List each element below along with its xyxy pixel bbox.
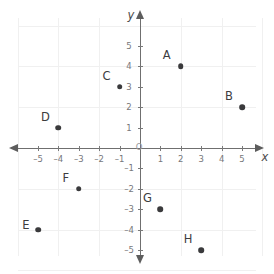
point-label-f: F	[62, 171, 69, 185]
plotted-point-e	[35, 227, 41, 233]
plotted-point-b	[239, 104, 245, 110]
point-label-g: G	[143, 191, 152, 205]
point-label-a: A	[163, 48, 171, 62]
plotted-point-d	[56, 125, 62, 131]
points-layer: ABCDEFGH	[0, 0, 274, 274]
plotted-point-g	[158, 206, 164, 212]
plotted-point-a	[178, 64, 184, 70]
coordinate-plane-chart: –5–4–3–2–11234554321–1–2–3–4–5yxO ABCDEF…	[0, 0, 274, 274]
point-label-c: C	[103, 69, 111, 83]
point-label-d: D	[41, 110, 50, 124]
plotted-point-h	[198, 247, 204, 253]
plotted-point-c	[117, 84, 123, 90]
plotted-point-f	[76, 186, 82, 192]
point-label-e: E	[22, 218, 29, 232]
point-label-h: H	[184, 232, 193, 246]
point-label-b: B	[225, 89, 233, 103]
